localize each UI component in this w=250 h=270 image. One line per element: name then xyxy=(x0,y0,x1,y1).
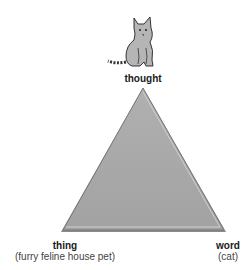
vertex-label-thing: thing (furry feline house pet) xyxy=(0,240,130,262)
thing-title: thing xyxy=(0,240,130,251)
thing-subtitle: (furry feline house pet) xyxy=(0,251,130,262)
semiotic-triangle xyxy=(0,0,250,270)
vertex-label-word: word (cat) xyxy=(210,240,246,262)
word-subtitle: (cat) xyxy=(210,251,246,262)
word-title: word xyxy=(210,240,246,251)
